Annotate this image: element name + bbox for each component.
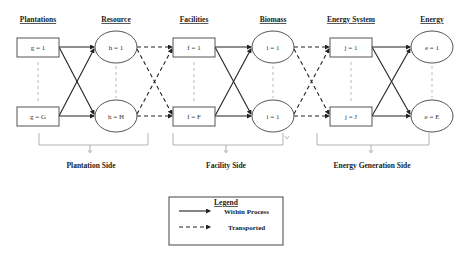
node-plantation-bottom: g = G bbox=[17, 107, 59, 126]
header-energy: Energy bbox=[420, 15, 444, 24]
header-facilities: Facilities bbox=[180, 15, 209, 24]
header-energy-system: Energy System bbox=[327, 15, 376, 24]
svg-text:i = 1: i = 1 bbox=[267, 44, 280, 52]
svg-text:j = 1: j = 1 bbox=[344, 44, 358, 52]
supply-chain-diagram: Plantations Resource Facilities Biomass … bbox=[0, 0, 464, 257]
svg-text:j = J: j = J bbox=[344, 113, 357, 121]
within-process-arrows-energy bbox=[372, 47, 410, 116]
legend: Legend Within Process Transported bbox=[169, 197, 283, 245]
label-energy-generation-side: Energy Generation Side bbox=[333, 161, 411, 170]
node-biomass-bottom: i = 1 bbox=[252, 100, 294, 132]
node-energy-top: e = 1 bbox=[411, 31, 453, 63]
svg-text:i = 1: i = 1 bbox=[267, 113, 280, 121]
transported-arrows-resource bbox=[137, 47, 172, 116]
svg-text:f = 1: f = 1 bbox=[187, 44, 201, 52]
within-process-arrows-plantation bbox=[59, 47, 94, 116]
bracket-facility-side bbox=[173, 133, 289, 153]
label-facility-side: Facility Side bbox=[206, 161, 246, 170]
transported-arrows-biomass bbox=[294, 47, 329, 116]
header-resource: Resource bbox=[101, 15, 131, 24]
node-facility-top: f = 1 bbox=[173, 38, 215, 57]
node-biomass-top: i = 1 bbox=[252, 31, 294, 63]
svg-text:e = E: e = E bbox=[425, 113, 440, 121]
svg-text:e = 1: e = 1 bbox=[425, 44, 440, 52]
node-energy-system-bottom: j = J bbox=[330, 107, 372, 126]
bracket-plantation-side bbox=[39, 133, 148, 153]
svg-text:h = H: h = H bbox=[108, 113, 124, 121]
svg-text:g = G: g = G bbox=[30, 113, 46, 121]
node-facility-bottom: f = F bbox=[173, 107, 215, 126]
header-biomass: Biomass bbox=[260, 15, 287, 24]
node-resource-top: h = 1 bbox=[95, 31, 137, 63]
node-energy-bottom: e = E bbox=[411, 100, 453, 132]
svg-text:h = 1: h = 1 bbox=[109, 44, 124, 52]
within-process-arrows-facility bbox=[215, 47, 251, 116]
node-plantation-top: g = 1 bbox=[17, 38, 59, 57]
legend-within-process: Within Process bbox=[224, 208, 269, 216]
legend-title: Legend bbox=[214, 198, 239, 207]
node-resource-bottom: h = H bbox=[95, 100, 137, 132]
svg-text:g = 1: g = 1 bbox=[31, 44, 46, 52]
svg-text:f = F: f = F bbox=[187, 113, 201, 121]
node-energy-system-top: j = 1 bbox=[330, 38, 372, 57]
header-plantations: Plantations bbox=[20, 15, 56, 24]
label-plantation-side: Plantation Side bbox=[67, 161, 117, 170]
legend-transported: Transported bbox=[228, 224, 265, 232]
bracket-energy-generation-side bbox=[317, 133, 429, 153]
